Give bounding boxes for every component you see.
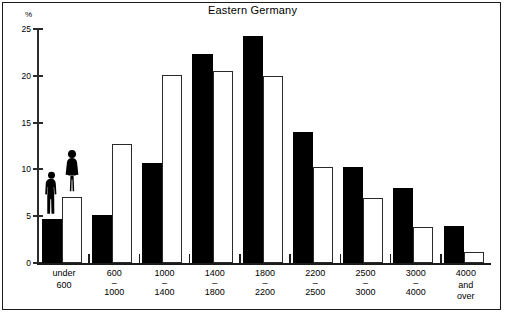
x-label-group-3: 1400–1800 [190, 268, 240, 298]
y-tick-10 [33, 168, 43, 170]
x-label-line: and [441, 280, 491, 292]
group-separator [440, 254, 442, 265]
bar-women-6 [363, 198, 383, 263]
x-label-line: – [190, 280, 240, 287]
bar-women-2 [162, 75, 182, 263]
x-label-line: 2500 [290, 287, 340, 299]
bar-women-1 [112, 144, 132, 263]
y-tick-label-20: 20 [5, 72, 31, 81]
x-label-line: 1400 [139, 287, 189, 299]
x-label-group-7: 3000–4000 [391, 268, 441, 298]
y-tick-label-5: 5 [5, 212, 31, 221]
y-axis-tick-labels: 0510152025 [0, 0, 31, 314]
y-tick-label-15: 15 [5, 119, 31, 128]
x-axis-baseline [37, 263, 491, 265]
group-separator [88, 254, 90, 265]
bar-women-8 [464, 252, 484, 263]
x-label-line: – [391, 280, 441, 287]
x-label-line: under [39, 268, 89, 280]
x-label-line: 3000 [340, 287, 390, 299]
group-separator [289, 254, 291, 265]
x-label-group-4: 1800–2200 [240, 268, 290, 298]
x-label-group-0: under600 [39, 268, 89, 291]
bar-men-6 [343, 167, 363, 263]
y-tick-5 [33, 215, 43, 217]
x-label-line: 4000 [441, 268, 491, 280]
female-figure-icon [63, 149, 81, 197]
bar-women-7 [413, 227, 433, 263]
x-label-group-6: 2500–3000 [340, 268, 390, 298]
group-separator [390, 254, 392, 265]
bar-women-0 [62, 197, 82, 263]
x-label-line: over [441, 291, 491, 303]
x-label-line: 1800 [190, 287, 240, 299]
x-label-group-5: 2200–2500 [290, 268, 340, 298]
x-label-group-8: 4000andover [441, 268, 491, 303]
x-label-group-2: 1000–1400 [139, 268, 189, 298]
y-tick-label-0: 0 [5, 259, 31, 268]
x-label-line: – [340, 280, 390, 287]
bar-women-5 [313, 167, 333, 263]
plot-area: % 0510152025 [0, 0, 505, 314]
y-tick-label-25: 25 [5, 25, 31, 34]
x-label-line: – [240, 280, 290, 287]
x-label-line: 2200 [240, 287, 290, 299]
x-label-group-1: 600–1000 [89, 268, 139, 298]
bar-men-8 [444, 226, 464, 263]
x-label-line: – [290, 280, 340, 287]
bar-men-2 [142, 163, 162, 263]
y-tick-25 [33, 28, 43, 30]
x-label-line: 1000 [89, 287, 139, 299]
bar-men-0 [42, 219, 62, 263]
bar-men-1 [92, 215, 112, 263]
bar-women-4 [263, 76, 283, 263]
y-tick-20 [33, 75, 43, 77]
bar-men-7 [393, 188, 413, 263]
male-figure-icon [43, 171, 60, 219]
bar-men-4 [243, 36, 263, 263]
y-axis-line [37, 28, 39, 264]
bar-women-3 [213, 71, 233, 263]
group-separator [189, 254, 191, 265]
y-tick-15 [33, 122, 43, 124]
x-label-line: – [89, 280, 139, 287]
bar-men-3 [192, 54, 212, 263]
group-separator [239, 254, 241, 265]
y-tick-label-10: 10 [5, 165, 31, 174]
x-label-line: – [139, 280, 189, 287]
x-axis-category-labels: under600600–10001000–14001400–18001800–2… [0, 268, 505, 314]
bar-men-5 [293, 132, 313, 263]
group-separator [340, 254, 342, 265]
x-label-line: 4000 [391, 287, 441, 299]
group-separator [139, 254, 141, 265]
x-label-line: 600 [39, 280, 89, 292]
